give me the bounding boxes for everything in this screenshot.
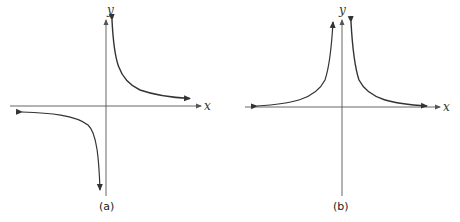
curve-branch-left — [257, 22, 333, 106]
figure-canvas — [0, 0, 460, 222]
caption-a: (a) — [99, 200, 114, 213]
x-axis-label-a: x — [204, 99, 211, 113]
panel-a — [10, 20, 201, 196]
curve-branch-q3 — [22, 112, 100, 190]
curve-branch-q1 — [112, 20, 190, 99]
caption-b: (b) — [333, 200, 349, 213]
y-axis-label-b: y — [339, 3, 346, 17]
curve-branch-right — [351, 22, 427, 106]
panel-b — [245, 20, 440, 196]
y-axis-label-a: y — [107, 3, 114, 17]
x-axis-label-b: x — [443, 100, 450, 114]
